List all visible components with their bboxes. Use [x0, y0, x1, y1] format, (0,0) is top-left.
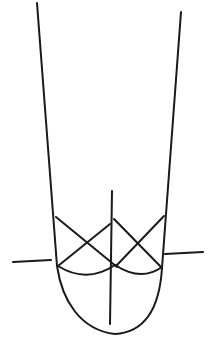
right-lower-arc: [115, 265, 162, 274]
right-horizontal-tick: [165, 252, 203, 254]
diagram-canvas: [0, 0, 219, 344]
center-vertical-divider: [110, 191, 112, 324]
tube-diagram: [0, 0, 219, 344]
right-x-diagonal-b: [116, 216, 164, 266]
left-lower-arc: [58, 265, 115, 275]
tube-outline: [37, 3, 181, 334]
left-horizontal-tick: [13, 260, 51, 262]
left-x-diagonal-b: [58, 224, 110, 266]
